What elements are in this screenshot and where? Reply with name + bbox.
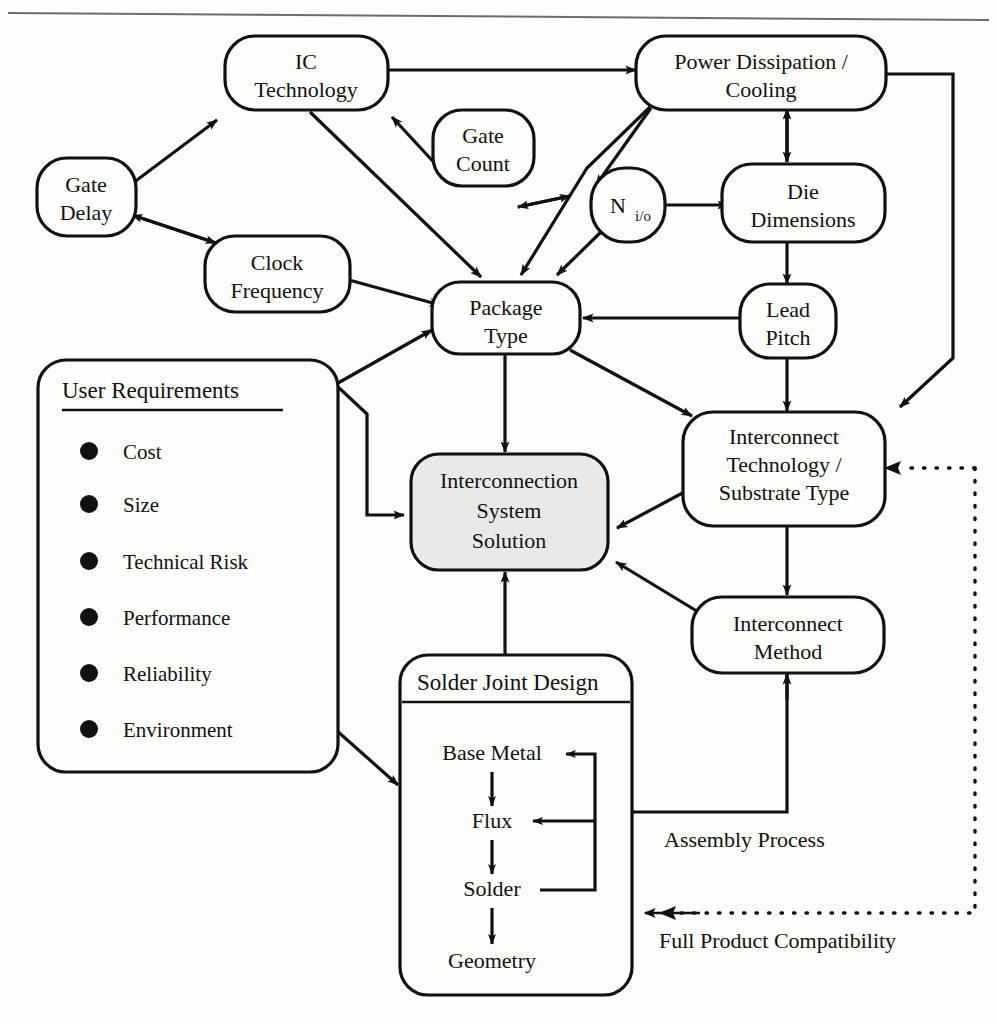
page-header-rule	[8, 13, 989, 20]
edge-gate-delay-to-clock-frequency	[132, 215, 216, 243]
edge-user-requirements-to-interconnection-system-solution	[337, 386, 404, 515]
user-requirements-item-label: Technical Risk	[123, 550, 249, 574]
user-requirements-title: User Requirements	[62, 378, 239, 403]
bullet-icon	[80, 720, 98, 738]
node-die-dimensions-line2: Dimensions	[750, 207, 855, 232]
solder-joint-design-title: Solder Joint Design	[417, 670, 599, 695]
edge-interconnect-method-to-interconnection-system-solution	[616, 562, 700, 613]
solder-step-base-metal: Base Metal	[442, 740, 542, 765]
node-lead-pitch-line2: Pitch	[765, 325, 810, 350]
user-requirements-item-label: Reliability	[123, 662, 212, 686]
node-gate-count-line2: Count	[456, 151, 510, 176]
solder-step-flux: Flux	[472, 808, 512, 833]
node-interconnection-system-solution-line2: System	[477, 498, 542, 523]
edge-power-dissipation-to-interconnect-technology	[886, 74, 953, 407]
edge-package-type-to-interconnect-technology	[570, 350, 692, 416]
node-interconnect-method-line2: Method	[754, 639, 822, 664]
node-interconnection-system-solution-line1: Interconnection	[440, 468, 578, 493]
node-gate-count[interactable]: Gate Count	[433, 110, 534, 186]
node-package-type-line2: Type	[484, 323, 528, 348]
node-interconnect-technology-line2: Technology /	[726, 452, 842, 477]
panel-user-requirements[interactable]: User Requirements Cost Size Technical Ri…	[38, 360, 338, 772]
node-interconnect-method[interactable]: Interconnect Method	[692, 597, 884, 673]
node-lead-pitch-line1: Lead	[766, 297, 810, 322]
node-clock-frequency-line2: Frequency	[231, 278, 324, 303]
panel-solder-joint-design[interactable]: Solder Joint Design Base Metal Flux Sold…	[400, 655, 632, 995]
solder-step-solder: Solder	[463, 876, 521, 901]
node-interconnect-method-line1: Interconnect	[733, 611, 843, 636]
edge-n-io-to-package-type	[557, 232, 601, 275]
node-clock-frequency-line1: Clock	[251, 250, 304, 275]
node-clock-frequency[interactable]: Clock Frequency	[205, 236, 350, 312]
node-interconnect-technology-line3: Substrate Type	[719, 480, 850, 505]
node-ic-technology-line1: IC	[295, 49, 317, 74]
edge-user-requirements-to-solder-joint-design	[336, 514, 398, 785]
node-ic-technology[interactable]: IC Technology	[225, 36, 388, 110]
node-lead-pitch[interactable]: Lead Pitch	[740, 284, 836, 358]
node-power-dissipation-line1: Power Dissipation /	[674, 49, 848, 74]
node-interconnection-system-solution[interactable]: Interconnection System Solution	[411, 454, 608, 570]
node-interconnect-technology-line1: Interconnect	[729, 424, 839, 449]
bullet-icon	[80, 495, 98, 513]
bullet-icon	[80, 608, 98, 626]
node-gate-count-line1: Gate	[462, 123, 504, 148]
diagram-canvas: IC Technology Power Dissipation / Coolin…	[0, 0, 997, 1024]
bullet-icon	[80, 442, 98, 460]
node-interconnection-system-solution-line3: Solution	[472, 528, 547, 553]
edge-clock-frequency-to-package-type	[349, 280, 440, 305]
user-requirements-item-label: Size	[123, 493, 159, 517]
node-package-type-line1: Package	[469, 295, 542, 320]
label-full-product-compatibility: Full Product Compatibility	[659, 928, 896, 953]
node-power-dissipation[interactable]: Power Dissipation / Cooling	[636, 36, 886, 110]
node-gate-delay-line1: Gate	[65, 172, 107, 197]
node-power-dissipation-line2: Cooling	[726, 77, 797, 102]
edge-gate-delay-to-ic-technology	[133, 120, 217, 183]
node-ic-technology-line2: Technology	[254, 77, 358, 102]
bullet-icon	[80, 552, 98, 570]
solder-step-geometry: Geometry	[448, 948, 536, 973]
node-die-dimensions-line1: Die	[787, 179, 819, 204]
user-requirements-item-label: Environment	[123, 718, 233, 742]
node-n-io[interactable]: N i/o	[591, 168, 665, 242]
bullet-icon	[80, 664, 98, 682]
node-die-dimensions[interactable]: Die Dimensions	[722, 164, 885, 242]
node-n-io-subscript: i/o	[635, 208, 651, 224]
node-gate-delay[interactable]: Gate Delay	[37, 158, 136, 236]
node-n-io-main: N	[610, 193, 626, 218]
edge-assembly-process-line	[633, 674, 787, 812]
user-requirements-item-label: Performance	[123, 606, 230, 630]
edge-user-requirements-to-package-type	[338, 330, 432, 383]
edge-interconnect-technology-to-interconnection-system-solution	[617, 489, 690, 528]
label-assembly-process: Assembly Process	[664, 827, 825, 852]
node-interconnect-technology[interactable]: Interconnect Technology / Substrate Type	[683, 412, 885, 526]
user-requirements-item-label: Cost	[123, 440, 162, 464]
influence-diagram-svg: IC Technology Power Dissipation / Coolin…	[0, 0, 997, 1024]
node-package-type[interactable]: Package Type	[432, 282, 580, 354]
node-gate-delay-line2: Delay	[60, 200, 113, 225]
